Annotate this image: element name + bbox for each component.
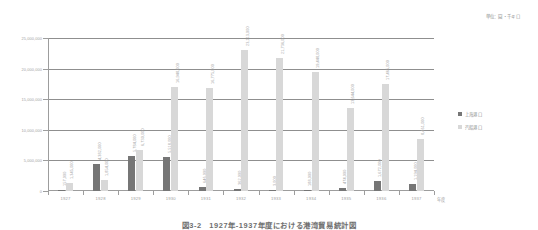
- legend-label: 上海港口: [465, 111, 482, 117]
- x-axis-tick: [48, 191, 49, 195]
- bar-group: 157,0001,345,000: [48, 38, 83, 191]
- y-axis-labels: 05,000,00010,000,00015,000,00020,000,000…: [0, 38, 46, 191]
- bar-value-label: 4,382,000: [98, 142, 102, 160]
- figure-caption: 図3-2 1927年-1937年度における港湾貿易統計図: [0, 219, 538, 230]
- bar-series-container: 157,0001,345,0004,382,0001,854,0005,784,…: [48, 38, 434, 191]
- legend-item[interactable]: 汽船港口: [458, 124, 528, 130]
- unit-note: 単位：圓・千キロ: [486, 13, 520, 19]
- bar-group: 1,672,00017,465,000: [364, 38, 399, 191]
- x-axis-tick-label: 1937: [411, 196, 421, 201]
- bar-上海港口-1928[interactable]: 4,382,000: [93, 164, 100, 191]
- x-axis-tick: [83, 191, 84, 195]
- chart-legend: 上海港口汽船港口: [458, 111, 528, 137]
- y-axis-tick-label: 20,000,000: [22, 66, 42, 71]
- x-axis-tick: [223, 191, 224, 195]
- x-axis-title: 年度: [437, 196, 445, 202]
- bar-group: 362,00023,113,000: [223, 38, 258, 191]
- y-axis-tick-label: 25,000,000: [22, 36, 42, 41]
- y-axis-tick-label: 0: [40, 189, 42, 194]
- bar-汽船港口-1928[interactable]: 1,854,000: [101, 180, 108, 191]
- bar-汽船港口-1935[interactable]: 13,644,000: [347, 108, 354, 192]
- bar-group: 646,00016,775,000: [188, 38, 223, 191]
- bar-group: 4,382,0001,854,000: [83, 38, 118, 191]
- bar-value-label: 16,775,000: [211, 64, 215, 84]
- x-axis-tick: [329, 191, 330, 195]
- x-axis-tick-label: 1936: [376, 196, 386, 201]
- bar-value-label: 23,113,000: [246, 26, 250, 46]
- bar-汽船港口-1934[interactable]: 19,448,000: [312, 72, 319, 191]
- bar-汽船港口-1927[interactable]: 1,345,000: [66, 183, 73, 191]
- x-axis-tick: [399, 191, 400, 195]
- x-axis-tick: [188, 191, 189, 195]
- y-axis-tick-label: 10,000,000: [22, 127, 42, 132]
- bar-value-label: 17,465,000: [386, 60, 390, 80]
- legend-swatch-icon: [458, 125, 462, 129]
- bar-汽船港口-1932[interactable]: 23,113,000: [241, 50, 248, 191]
- bar-汽船港口-1931[interactable]: 16,775,000: [206, 88, 213, 191]
- bar-group: 5,518,00016,948,000: [153, 38, 188, 191]
- x-axis-tick-label: 1931: [201, 196, 211, 201]
- bar-value-label: 8,461,000: [421, 117, 425, 135]
- x-axis-tick: [294, 191, 295, 195]
- bar-汽船港口-1929[interactable]: 6,730,000: [136, 150, 143, 191]
- x-axis-tick-label: 1928: [96, 196, 106, 201]
- bar-group: 3,00021,736,000: [259, 38, 294, 191]
- x-axis-tick-label: 1934: [306, 196, 316, 201]
- bar-汽船港口-1937[interactable]: 8,461,000: [417, 139, 424, 191]
- bar-value-label: 1,345,000: [70, 161, 74, 179]
- x-axis-tick: [259, 191, 260, 195]
- legend-swatch-icon: [458, 112, 462, 116]
- x-axis-tick: [364, 191, 365, 195]
- bar-group: 474,00013,644,000: [329, 38, 364, 191]
- bar-group: 5,784,0006,730,000: [118, 38, 153, 191]
- bar-上海港口-1937[interactable]: 1,194,000: [409, 184, 416, 191]
- bar-汽船港口-1936[interactable]: 17,465,000: [382, 84, 389, 191]
- bar-上海港口-1930[interactable]: 5,518,000: [163, 157, 170, 191]
- x-axis-tick: [434, 191, 435, 195]
- bar-汽船港口-1933[interactable]: 21,736,000: [276, 58, 283, 191]
- x-axis-tick-label: 1932: [236, 196, 246, 201]
- bar-value-label: 16,948,000: [176, 63, 180, 83]
- bar-上海港口-1936[interactable]: 1,672,000: [374, 181, 381, 191]
- y-axis-tick-label: 5,000,000: [24, 158, 42, 163]
- bar-value-label: 6,730,000: [141, 128, 145, 146]
- legend-item[interactable]: 上海港口: [458, 111, 528, 117]
- bar-value-label: 13,644,000: [351, 83, 355, 103]
- bar-value-label: 21,736,000: [281, 34, 285, 54]
- x-axis-tick: [153, 191, 154, 195]
- x-axis-tick-label: 1930: [166, 196, 176, 201]
- y-axis-tick-label: 15,000,000: [22, 97, 42, 102]
- bar-group: 1,194,0008,461,000: [399, 38, 434, 191]
- x-axis-tick-label: 1929: [131, 196, 141, 201]
- legend-label: 汽船港口: [465, 124, 482, 130]
- x-axis-tick-label: 1927: [60, 196, 70, 201]
- bar-上海港口-1929[interactable]: 5,784,000: [128, 156, 135, 191]
- x-axis-tick-label: 1935: [341, 196, 351, 201]
- x-axis-tick: [118, 191, 119, 195]
- bar-value-label: 1,854,000: [105, 158, 109, 176]
- bar-group: 188,00019,448,000: [294, 38, 329, 191]
- x-axis-ticks: [48, 191, 434, 195]
- bar-value-label: 19,448,000: [316, 48, 320, 68]
- x-axis-labels: 1927192819291930193119321933193419351936…: [48, 196, 434, 208]
- chart-figure: 単位：圓・千キロ 05,000,00010,000,00015,000,0002…: [0, 0, 538, 230]
- bar-汽船港口-1930[interactable]: 16,948,000: [171, 87, 178, 191]
- x-axis-tick-label: 1933: [271, 196, 281, 201]
